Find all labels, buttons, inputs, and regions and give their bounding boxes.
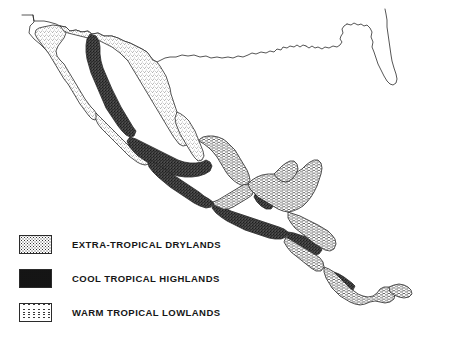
map-legend: EXTRA-TROPICAL DRYLANDS COOL TROPICAL HI… (19, 233, 319, 335)
california-baja-border (33, 15, 60, 26)
legend-swatch-warm-tropical-lowlands (19, 303, 52, 322)
region-group-drylands (35, 25, 204, 165)
florida-peninsula-coast (347, 9, 397, 85)
legend-label-warm-tropical-lowlands: WARM TROPICAL LOWLANDS (72, 308, 221, 318)
legend-item-extra-tropical-drylands: EXTRA-TROPICAL DRYLANDS (19, 233, 319, 256)
region-costa-rica-panama-lowland (324, 267, 395, 305)
legend-item-warm-tropical-lowlands: WARM TROPICAL LOWLANDS (19, 301, 319, 324)
legend-label-extra-tropical-drylands: EXTRA-TROPICAL DRYLANDS (72, 240, 221, 250)
legend-swatch-extra-tropical-drylands (19, 235, 52, 254)
legend-swatch-cool-tropical-highlands (19, 269, 52, 288)
region-isthmus-tehuantepec-lowland (213, 184, 254, 209)
unshaded-coastlines (22, 9, 397, 85)
legend-label-cool-tropical-highlands: COOL TROPICAL HIGHLANDS (72, 274, 220, 284)
legend-item-cool-tropical-highlands: COOL TROPICAL HIGHLANDS (19, 267, 319, 290)
texas-gulf-coast (306, 24, 347, 49)
climate-zone-map-figure: EXTRA-TROPICAL DRYLANDS COOL TROPICAL HI… (0, 0, 452, 345)
